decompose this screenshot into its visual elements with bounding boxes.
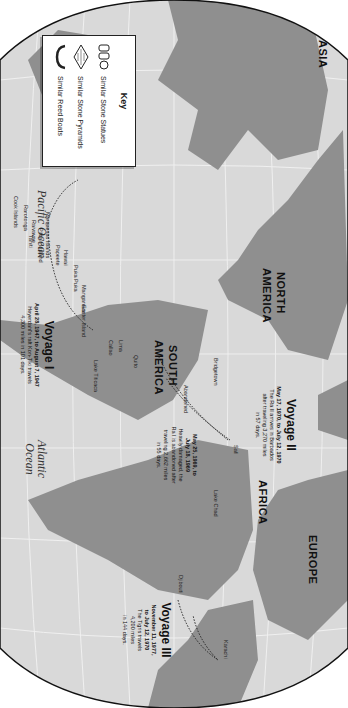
label-hawaii: Hawaii: [63, 250, 69, 267]
label-karachi: Karachi: [223, 640, 229, 659]
key-item-reed-boats: Similar Reed Boats: [55, 44, 67, 136]
voyage-2-desc-2: after traveling 3,270 miles: [261, 370, 268, 480]
label-lake-chad: Lake Chad: [213, 490, 219, 517]
label-puka-puka: Puka Puka: [73, 265, 79, 292]
voyage-1-title: Voyage I: [42, 280, 56, 410]
label-cook: Cook Islands: [13, 196, 19, 228]
voyage-1-info: Voyage I April 28, 1947, to August 7, 19…: [19, 280, 56, 410]
label-djibouti: Djibouti: [178, 575, 184, 593]
label-north-america-2: AMERICA: [261, 268, 272, 323]
voyage-2-title: Voyage II: [284, 370, 298, 480]
label-lima: Lima: [118, 340, 124, 352]
label-marquesas: Marquesas Islands: [45, 212, 51, 258]
ra-1-desc-1: Heavily damaged, the: [177, 410, 184, 500]
voyage-2-info: Voyage II May 17, 1970, to July 12, 1970…: [253, 370, 298, 480]
voyages-map: ASIA NORTH AMERICA SOUTH AMERICA AFRICA …: [0, 0, 348, 708]
label-asia: ASIA: [317, 40, 328, 68]
label-atlantic-l2: Ocean: [24, 440, 36, 478]
map-key: Key Similar Stone Statues Similar Stone …: [42, 35, 136, 167]
voyage-2-desc-3: in 57 days.: [253, 370, 260, 480]
voyage-3-desc-3: in 144 days.: [121, 590, 128, 670]
key-item-pyramids: Similar Stone Pyramids: [73, 44, 89, 149]
voyage-3-title: Voyage III: [159, 590, 173, 670]
label-quito: Quito: [133, 355, 139, 368]
voyage-3-dates-2: to July 12, 1970: [143, 590, 150, 670]
label-easter: Easter Island: [81, 305, 87, 337]
label-bridgetown: Bridgetown: [213, 358, 219, 386]
voyage-2-desc-1: The Ra II arrives in Barbados: [268, 370, 275, 480]
label-europe: EUROPE: [307, 535, 318, 584]
reed-boat-icon: [55, 44, 67, 70]
voyage-3-desc-1: The Tigris travels: [136, 590, 143, 670]
label-atlantic-l1: Atlantic: [36, 440, 48, 478]
voyage-2-dates: May 17, 1970, to July 12, 1970: [275, 370, 282, 480]
stone-pyramid-icon: [73, 44, 89, 70]
key-label-reed-boats: Similar Reed Boats: [58, 76, 65, 136]
label-callao: Callao: [108, 340, 114, 356]
voyage-3-dates-1: November 11, 1977,: [150, 590, 157, 670]
label-south-america-2: AMERICA: [153, 340, 164, 395]
key-label-statues: Similar Stone Statues: [101, 76, 108, 143]
label-papeete: Papeete: [55, 245, 61, 266]
voyage-3-desc-2: 4,200 miles: [128, 590, 135, 670]
label-rarotonga: Rarotonga: [23, 205, 29, 231]
ra-1-desc-3: traveling 2,662 miles: [162, 410, 169, 500]
label-abandoned: Abandoned: [183, 385, 189, 413]
voyage-1-desc-1: Heyerdahl's raft Kon-Tiki travels: [26, 280, 33, 410]
ra-1-info: May 25, 1969, to July 18, 1969 Heavily d…: [155, 410, 198, 500]
label-north-america-1: NORTH: [275, 272, 286, 314]
label-safi: Safi: [233, 445, 239, 454]
key-label-pyramids: Similar Stone Pyramids: [78, 76, 85, 149]
key-title: Key: [119, 36, 129, 166]
voyage-1-dates: April 28, 1947, to August 7, 1947: [33, 280, 40, 410]
label-lake-titicaca: Lake Titicaca: [93, 360, 99, 392]
key-item-statues: Similar Stone Statues: [97, 44, 111, 143]
label-africa: AFRICA: [257, 480, 268, 525]
label-raivavae: Raivavae: [31, 220, 37, 243]
label-pitcairn: Pitcairn Island: [38, 228, 44, 263]
voyage-3-info: Voyage III November 11, 1977, to July 12…: [121, 590, 173, 670]
label-atlantic-ocean: Atlantic Ocean: [24, 440, 48, 478]
stone-statue-icon: [97, 44, 111, 70]
label-south-america-1: SOUTH: [167, 345, 178, 386]
ra-1-dates-1: May 25, 1969, to: [191, 410, 198, 500]
ra-1-dates-2: July 18, 1969: [184, 410, 191, 500]
voyage-1-desc-2: 4,300 miles in 101 days.: [19, 280, 26, 410]
ra-1-desc-2: Ra I is abandoned after: [169, 410, 176, 500]
ra-1-desc-4: in 55 days.: [155, 410, 162, 500]
